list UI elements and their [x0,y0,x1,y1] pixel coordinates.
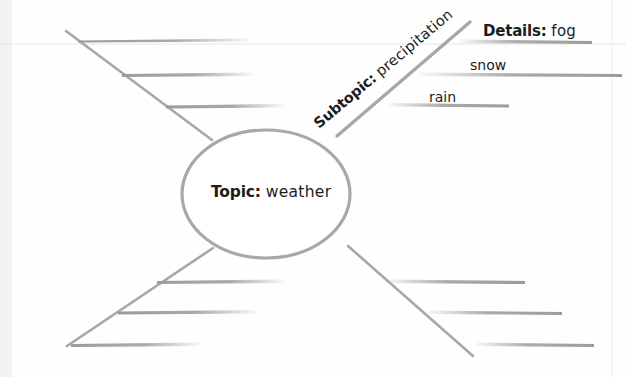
topic-label: Topic: weather [211,185,331,201]
branch-bottom-left-detail-line-3 [71,343,201,348]
branch-bottom-right-detail-line-1 [384,280,525,285]
branch-top-left-detail-line-1 [78,39,252,43]
branch-top-left-detail-line-3 [166,104,285,109]
branch-bottom-left-detail-line-2 [118,310,258,315]
branch-top-left[interactable] [66,31,285,140]
branch-bottom-right-detail-line-2 [427,311,562,316]
branch-bottom-left-stem [67,248,213,346]
branch-bottom-right-detail-line-3 [475,343,594,348]
branch-top-right-detail-line-2 [419,73,622,78]
details-prefix: Details: [483,22,547,40]
detail-snow-label: snow [470,58,506,72]
branch-bottom-left-detail-line-1 [157,280,286,285]
worksheet-canvas: Topic: weather Subtopic: precipitation D… [0,0,626,377]
branch-top-right-detail-line-1 [458,40,592,45]
detail-fog-label: Details: fog [483,24,576,39]
branch-top-left-detail-line-2 [122,73,254,78]
page-left-margin-strip [0,0,12,377]
branch-bottom-right-stem [348,246,473,356]
branch-top-left-stem [66,31,212,140]
topic-value: weather [266,183,332,201]
topic-prefix: Topic: [211,183,261,201]
detail-fog-value: fog [551,22,576,40]
branch-bottom-left[interactable] [67,248,286,347]
branch-bottom-right[interactable] [348,246,594,356]
detail-rain-label: rain [429,90,456,104]
